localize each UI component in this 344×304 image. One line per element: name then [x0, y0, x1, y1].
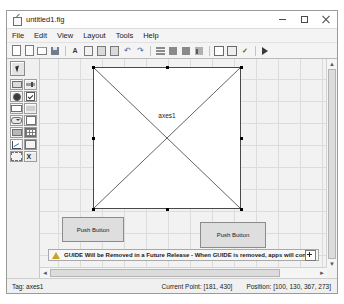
toolbar-separator [255, 46, 256, 56]
axes-tool[interactable] [10, 139, 23, 150]
menu-item-view[interactable]: View [57, 31, 79, 40]
scroll-down-arrow[interactable]: ▼ [327, 259, 337, 268]
window-controls [271, 11, 337, 28]
push-button-2-label: Push Button [217, 232, 250, 238]
axes-object[interactable]: axes1 [93, 67, 241, 209]
menu-item-tools[interactable]: Tools [116, 31, 140, 40]
horizontal-scroll-thumb[interactable] [50, 269, 280, 277]
resize-handle-nw[interactable] [92, 66, 95, 69]
resize-handle-se[interactable] [240, 208, 243, 211]
save-icon[interactable] [49, 45, 61, 57]
guide-layout-editor-window: untitled1.fig File Edit View Layout Tool… [6, 10, 338, 294]
push-button-1[interactable]: Push Button [62, 217, 124, 242]
vertical-scroll-thumb[interactable] [328, 69, 336, 259]
toolbar-separator [65, 46, 66, 56]
arrow-cursor-icon [15, 65, 21, 72]
scroll-left-arrow[interactable]: ◄ [40, 268, 50, 277]
vertical-scrollbar[interactable]: ▲ ▼ [326, 59, 337, 268]
horizontal-scrollbar[interactable]: ◄ ► [40, 267, 327, 278]
panel-tool[interactable] [24, 139, 37, 150]
resize-handle-w[interactable] [92, 137, 95, 140]
expand-warning-icon[interactable] [305, 250, 316, 261]
toolbar-separator [150, 46, 151, 56]
menu-item-edit[interactable]: Edit [34, 31, 53, 40]
toggle-button-tool[interactable] [10, 127, 23, 138]
resize-handle-sw[interactable] [92, 208, 95, 211]
figure-file-icon [12, 15, 22, 25]
status-bar: Tag: axes1 Current Point: [181, 430] Pos… [7, 278, 337, 293]
maximize-button[interactable] [293, 11, 315, 28]
copy-icon[interactable] [95, 45, 107, 57]
select-arrow-tool[interactable] [10, 61, 25, 76]
resize-handle-s[interactable] [166, 208, 169, 211]
window-title: untitled1.fig [26, 15, 64, 24]
align-objects-icon[interactable] [154, 45, 166, 57]
new-figure-icon[interactable] [10, 45, 22, 57]
push-button-tool[interactable] [10, 79, 23, 90]
deprecation-warning-banner[interactable]: GUIDE Will be Removed in a Future Releas… [48, 249, 319, 261]
menu-item-file[interactable]: File [12, 31, 30, 40]
palette-grid [10, 79, 37, 162]
push-button-1-label: Push Button [77, 227, 110, 233]
cut-icon[interactable] [82, 45, 94, 57]
table-tool[interactable] [24, 127, 37, 138]
undo-icon[interactable]: ↶ [121, 45, 133, 57]
menu-editor-icon[interactable] [180, 45, 192, 57]
scroll-up-arrow[interactable]: ▲ [327, 59, 337, 68]
toolbar-editor-icon[interactable] [193, 45, 205, 57]
edit-text-tool[interactable] [10, 103, 23, 114]
grid-and-rulers-icon[interactable] [167, 45, 179, 57]
menu-bar: File Edit View Layout Tools Help [7, 29, 337, 43]
title-bar: untitled1.fig [7, 11, 337, 29]
minimize-button[interactable] [271, 11, 293, 28]
object-browser-icon[interactable]: ✓ [239, 45, 251, 57]
status-current-point: Current Point: [181, 430] [162, 283, 233, 290]
check-box-tool[interactable] [24, 91, 37, 102]
warning-triangle-icon [52, 252, 60, 259]
scroll-right-arrow[interactable]: ► [317, 268, 327, 277]
slider-tool[interactable] [24, 79, 37, 90]
run-figure-icon[interactable] [259, 45, 271, 57]
axes-diagonal-lines [94, 68, 240, 208]
m-file-editor-icon[interactable] [213, 45, 225, 57]
property-inspector-icon[interactable] [226, 45, 238, 57]
work-area: axes1 Push Button Push Button [7, 59, 337, 278]
status-tag: Tag: axes1 [7, 283, 43, 290]
component-palette [7, 59, 39, 278]
text-tool-icon[interactable]: A [69, 45, 81, 57]
status-position: Position: [100, 130, 367, 273] [246, 283, 331, 290]
toolbar: A ↶ ↷ ✓ [7, 43, 337, 59]
activex-control-tool[interactable] [24, 151, 37, 162]
warning-message: GUIDE Will be Removed in a Future Releas… [64, 252, 305, 258]
resize-handle-e[interactable] [240, 137, 243, 140]
pop-up-menu-tool[interactable] [10, 115, 23, 126]
resize-handle-ne[interactable] [240, 66, 243, 69]
canvas-viewport: axes1 Push Button Push Button [39, 59, 337, 278]
axes-label: axes1 [94, 112, 240, 119]
paste-icon[interactable] [108, 45, 120, 57]
redo-icon[interactable]: ↷ [134, 45, 146, 57]
toolbar-separator [209, 46, 210, 56]
menu-item-layout[interactable]: Layout [83, 31, 112, 40]
open-file-icon[interactable] [23, 45, 35, 57]
push-button-2[interactable]: Push Button [200, 222, 266, 248]
figure-canvas[interactable]: axes1 Push Button Push Button [40, 59, 327, 268]
menu-item-help[interactable]: Help [143, 31, 164, 40]
close-button[interactable] [315, 11, 337, 28]
resize-handle-n[interactable] [166, 66, 169, 69]
button-group-tool[interactable] [10, 151, 23, 162]
radio-button-tool[interactable] [10, 91, 23, 102]
folder-icon[interactable] [36, 45, 48, 57]
list-box-tool[interactable] [24, 115, 37, 126]
static-text-tool[interactable] [24, 103, 37, 114]
